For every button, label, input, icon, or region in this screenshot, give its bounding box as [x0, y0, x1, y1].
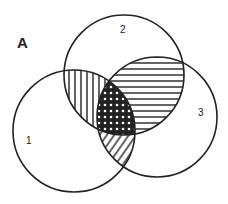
- venn-diagram: A 1 2 3: [0, 0, 228, 204]
- panel-label: A: [17, 34, 28, 51]
- circle-3-label: 3: [198, 107, 204, 118]
- circle-1-label: 1: [26, 135, 32, 146]
- circle-2-label: 2: [120, 24, 126, 35]
